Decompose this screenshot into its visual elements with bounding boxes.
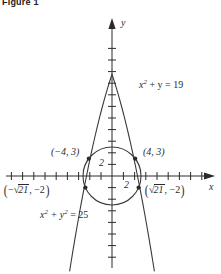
point-marker-sqrt21-neg2 <box>137 186 141 190</box>
parabola-equation-label: x2 + y = 19 <box>139 79 183 90</box>
circle-eq-var-y: + y <box>48 209 64 220</box>
sqrt-icon: √21 <box>14 184 30 196</box>
point-marker-4-3 <box>133 157 137 161</box>
point-marker-neg-sqrt21-neg2 <box>83 186 87 190</box>
y-axis-tick-label-2: 2 <box>99 157 104 168</box>
parabola-eq-value: 19 <box>173 79 183 90</box>
lower-left-tail: , −2 <box>29 184 45 195</box>
point-label-upper-left: (−4, 3) <box>51 146 79 157</box>
y-axis-arrowhead <box>108 18 115 29</box>
right-paren: ) <box>45 182 49 199</box>
y-axis-label: y <box>121 17 125 28</box>
lower-right-tail: , −2 <box>165 184 181 195</box>
lower-right-radicand: 21 <box>154 184 165 196</box>
point-marker-neg4-3 <box>87 157 91 161</box>
sqrt-icon: √21 <box>149 184 165 196</box>
left-paren: ( <box>145 182 149 199</box>
point-label-upper-right: (4, 3) <box>143 146 165 157</box>
lower-left-radicand: 21 <box>18 184 29 196</box>
point-label-lower-right: (√21, −2) <box>144 182 185 199</box>
right-paren: ) <box>181 182 185 199</box>
x-axis-tick-label-2: 2 <box>124 179 129 190</box>
figure-container: Figure 1 <box>0 0 221 274</box>
x-axis-label: x <box>209 181 213 192</box>
parabola-eq-middle: + y = <box>147 79 173 90</box>
x-axis-arrowhead <box>204 172 215 179</box>
circle-equation-label: x2 + y2 = 25 <box>40 209 88 220</box>
axes-group <box>6 18 215 268</box>
circle-eq-value: = 25 <box>68 209 89 220</box>
coordinate-plot <box>0 0 221 274</box>
left-paren: ( <box>4 182 8 199</box>
point-label-lower-left: (−√21, −2) <box>3 182 50 199</box>
